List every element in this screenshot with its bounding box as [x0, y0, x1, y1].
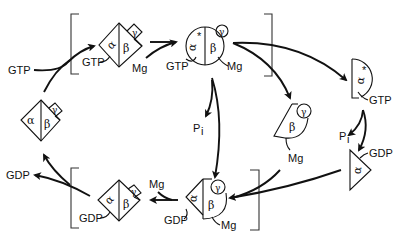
- star-label: *: [362, 64, 367, 76]
- gamma-label: γ: [215, 183, 220, 193]
- pi-label-right: P: [339, 130, 346, 142]
- mg-label: Mg: [221, 219, 236, 231]
- pi-subscript: i: [201, 125, 203, 137]
- gtp-input-label: GTP: [8, 64, 31, 76]
- gtp-label: GTP: [166, 60, 189, 72]
- pi-label: P: [193, 122, 200, 134]
- alpha-label: α: [102, 192, 117, 207]
- beta-label: β: [210, 42, 216, 55]
- pi-release-arrow-right: [349, 110, 363, 135]
- pi-subscript-right: i: [347, 133, 349, 145]
- star-label: *: [197, 30, 202, 42]
- reassociated-complex: γ α β GDP Mg: [164, 179, 236, 231]
- alpha-label: α: [27, 114, 35, 127]
- bracket-left-bottom: [71, 168, 79, 228]
- alpha-label: α: [350, 165, 364, 175]
- gamma-label: γ: [219, 27, 224, 37]
- mg-label: Mg: [288, 152, 303, 164]
- activated-heterotrimer: γ α * β GTP Mg: [166, 25, 242, 72]
- alpha-star-gtp: α * GTP: [352, 59, 392, 106]
- pi-release-arrow-left: [206, 80, 212, 116]
- mg-release-label: Mg: [149, 178, 164, 190]
- g-protein-cycle-diagram: γ α β GTP GTP Mg γ α * β GTP Mg P i α * …: [0, 0, 397, 240]
- beta-gamma-mg: γ β Mg: [274, 104, 311, 164]
- gamma-label: γ: [52, 105, 57, 115]
- gamma-label: γ: [132, 28, 137, 38]
- mg-binding-arrow: [146, 42, 176, 58]
- beta-label: β: [289, 121, 295, 134]
- beta-label: β: [44, 118, 50, 131]
- bracket-right-bottom: [250, 170, 259, 230]
- mg-input-label: Mg: [132, 62, 147, 74]
- alpha-label: α: [186, 193, 200, 203]
- alpha-star-label: α: [185, 42, 199, 52]
- beta-label: β: [123, 198, 129, 211]
- mg-label: Mg: [227, 60, 242, 72]
- alpha-star-label: α: [353, 75, 367, 85]
- mg-release-arrow: [158, 192, 172, 200]
- gtp-label: GTP: [369, 94, 392, 106]
- alpha-label: α: [104, 37, 119, 52]
- gdp-output-label: GDP: [6, 169, 30, 181]
- gdp-label: GDP: [79, 212, 103, 224]
- bracket-left-top: [71, 14, 79, 74]
- gdp-label: GDP: [164, 214, 188, 226]
- gamma-label: γ: [131, 187, 136, 197]
- beta-label: β: [123, 42, 129, 55]
- beta-label: β: [208, 199, 214, 212]
- gamma-label: γ: [301, 107, 306, 117]
- gdp-label: GDP: [369, 147, 393, 159]
- gtp-label: GTP: [82, 56, 105, 68]
- alpha-gdp: α GDP: [350, 147, 393, 190]
- dissociation-arrow-alpha: [233, 43, 346, 80]
- inactive-heterotrimer: γ α β: [21, 100, 62, 141]
- gdp-bound-heterotrimer: γ α β GDP: [79, 180, 141, 224]
